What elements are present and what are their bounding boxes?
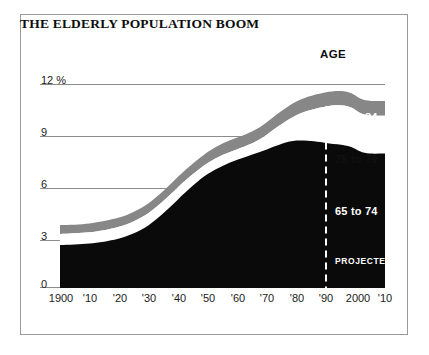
x-tick-label-1970: '70 [260, 292, 274, 304]
x-tick-label-1990: '90 [319, 292, 333, 304]
legend-title-age: AGE [300, 48, 366, 60]
x-tick-label-1930: '30 [142, 292, 156, 304]
x-tick-label-1940: '40 [172, 292, 186, 304]
page-title: THE ELDERLY POPULATION BOOM [20, 16, 259, 32]
band-label-80-to-84: 80 to 84 [335, 111, 378, 123]
x-tick-label-2010: '10 [378, 292, 392, 304]
y-tick-label-0: 0 [41, 278, 47, 290]
x-tick-label-1920: '20 [113, 292, 127, 304]
y-tick-label-9: 9 [41, 126, 47, 138]
y-tick-label-3: 3 [41, 230, 47, 242]
x-tick-label-1950: '50 [201, 292, 215, 304]
x-tick-label-1980: '80 [290, 292, 304, 304]
band-label-65-to-74: 65 to 74 [335, 205, 378, 217]
y-tick-label-6: 6 [41, 178, 47, 190]
band-label-75-to-79: 75 to 79 [335, 153, 378, 165]
x-tick-label-1900: 1900 [49, 292, 73, 304]
chart-plot-area: 80 to 84 75 to 79 65 to 74 PROJECTED [40, 70, 385, 288]
x-tick-label-2000: 2000 [346, 292, 370, 304]
x-tick-label-1910: '10 [83, 292, 97, 304]
projected-annotation: PROJECTED [335, 256, 392, 266]
y-tick-label-12: 12 % [41, 74, 66, 86]
x-tick-label-1960: '60 [231, 292, 245, 304]
stacked-area-chart [40, 70, 385, 288]
